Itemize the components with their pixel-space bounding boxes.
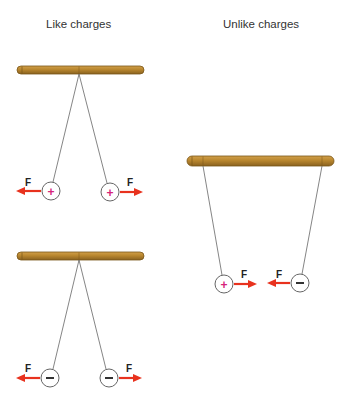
force-arrow-right <box>119 374 142 382</box>
force-label: F <box>241 269 247 280</box>
force-label: F <box>126 363 132 374</box>
force-arrow-right <box>120 188 143 196</box>
force-arrow-right <box>234 280 257 288</box>
positive-sign: + <box>47 185 54 199</box>
like-positive-diagram: F + + F <box>16 66 144 201</box>
force-arrow-left <box>267 279 290 287</box>
positive-sign: + <box>220 278 227 292</box>
string-left <box>53 74 79 182</box>
rod <box>187 156 334 166</box>
force-arrow-left <box>16 374 40 382</box>
negative-charge-ball <box>100 369 118 387</box>
string-right <box>79 260 106 369</box>
force-label: F <box>127 177 133 188</box>
electric-charges-diagram: F + + F F <box>0 0 341 397</box>
rod <box>17 66 144 74</box>
force-arrow-left <box>16 187 41 195</box>
positive-charge-ball: + <box>215 275 233 293</box>
force-label: F <box>276 269 282 280</box>
negative-charge-ball <box>291 274 309 292</box>
like-negative-diagram: F F <box>16 252 144 387</box>
string-right <box>302 166 322 274</box>
positive-charge-ball: + <box>42 182 60 200</box>
string-left <box>53 260 79 369</box>
positive-sign: + <box>106 186 113 200</box>
string-left <box>203 166 222 275</box>
negative-charge-ball <box>41 369 59 387</box>
force-label: F <box>25 363 31 374</box>
unlike-charges-diagram: + F F <box>187 156 334 293</box>
force-label: F <box>25 177 31 188</box>
string-right <box>79 74 107 183</box>
rod <box>17 252 144 260</box>
positive-charge-ball: + <box>101 183 119 201</box>
